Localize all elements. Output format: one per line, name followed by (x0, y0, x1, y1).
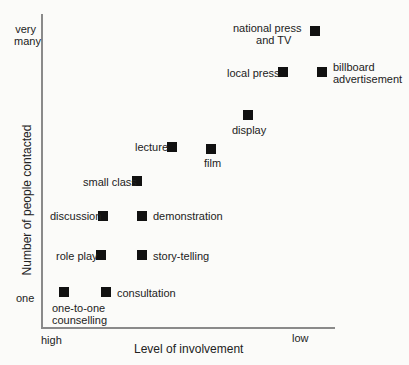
point-marker-film (206, 144, 216, 154)
label-line: advertisement (333, 73, 402, 85)
point-label-billboard: billboard advertisement (333, 61, 402, 85)
point-marker-counselling (59, 287, 69, 297)
point-label-consultation: consultation (117, 287, 176, 299)
point-label-counselling: one-to-one counselling (52, 302, 107, 326)
point-marker-consultation (101, 287, 111, 297)
y-axis-bottom-label: one (16, 292, 34, 304)
x-axis-left-label: high (41, 334, 62, 346)
point-marker-display (243, 110, 253, 120)
y-top-line1: very (14, 23, 36, 35)
x-axis-line (41, 327, 335, 329)
point-label-local-press: local press (227, 67, 280, 79)
point-marker-billboard (317, 67, 327, 77)
label-line: billboard (333, 61, 402, 73)
point-marker-story-telling (137, 250, 147, 260)
point-label-film: film (204, 157, 221, 169)
point-label-discussion: discussion (50, 210, 101, 222)
x-axis-title: Level of involvement (134, 342, 243, 356)
label-line: national press (233, 22, 302, 34)
label-line: one-to-one (52, 302, 107, 314)
y-top-line2: many (14, 35, 36, 47)
point-label-small-class: small class (83, 176, 137, 188)
y-axis-title: Number of people contacted (20, 125, 34, 276)
x-axis-right-label: low (292, 332, 309, 344)
y-axis-top-label: very many (14, 23, 36, 47)
label-line: counselling (52, 314, 107, 326)
point-marker-lecture (167, 142, 177, 152)
point-marker-demonstration (137, 211, 147, 221)
label-line: and TV (233, 34, 302, 46)
point-label-role-play: role play (56, 250, 98, 262)
point-label-demonstration: demonstration (153, 210, 223, 222)
y-axis-line (41, 14, 43, 328)
involvement-scatter-chart: very many one high low Level of involvem… (0, 0, 409, 365)
point-label-national-press: national press and TV (233, 22, 302, 46)
point-marker-national-press (310, 26, 320, 36)
point-label-lecture: lecture (135, 141, 168, 153)
point-label-display: display (232, 124, 266, 136)
point-label-story-telling: story-telling (153, 250, 209, 262)
